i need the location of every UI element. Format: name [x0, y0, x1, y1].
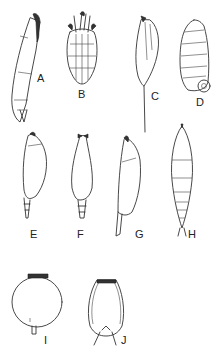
panel-d-drawing — [180, 20, 210, 92]
panel-label-d: D — [196, 96, 204, 108]
panel-e-drawing — [23, 132, 46, 218]
panel-label-i: I — [44, 334, 47, 346]
panel-b-drawing — [67, 12, 97, 84]
panel-j-drawing — [88, 280, 123, 345]
panel-label-a: A — [37, 72, 45, 84]
panel-g-drawing — [116, 136, 141, 236]
panel-c-drawing — [136, 16, 159, 132]
panel-i-drawing — [12, 274, 62, 334]
panel-label-f: F — [77, 228, 84, 240]
panel-label-j: J — [121, 334, 127, 346]
figure-canvas: A B C D E F G — [0, 0, 224, 356]
panel-label-c: C — [151, 90, 159, 102]
panel-f-drawing — [72, 134, 93, 218]
panel-label-g: G — [135, 228, 144, 240]
panel-a-drawing — [12, 13, 40, 122]
panel-h-drawing — [171, 124, 192, 236]
panel-label-b: B — [78, 88, 85, 100]
panel-label-e: E — [30, 228, 37, 240]
panel-label-h: H — [188, 228, 196, 240]
